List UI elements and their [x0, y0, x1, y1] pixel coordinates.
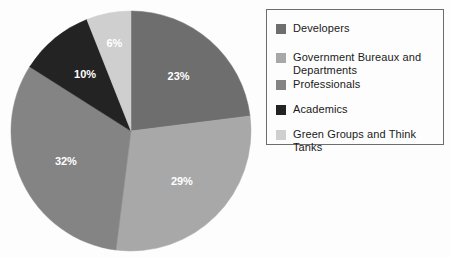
pie-chart-figure: 23%29%32%10%6% DevelopersGovernment Bure…: [0, 0, 451, 257]
legend-color-swatch: [276, 130, 286, 140]
chart-legend: DevelopersGovernment Bureaux and Departm…: [266, 9, 444, 145]
legend-item-list: DevelopersGovernment Bureaux and Departm…: [267, 10, 443, 144]
pie-slice-value-label: 10%: [74, 68, 96, 80]
pie-slice-value-label: 32%: [55, 155, 77, 167]
legend-color-swatch: [276, 80, 286, 90]
pie-chart-svg: 23%29%32%10%6%: [0, 0, 266, 257]
pie-slice[interactable]: [131, 11, 250, 131]
legend-item-label: Green Groups and Think Tanks: [293, 128, 443, 153]
legend-color-swatch: [276, 24, 286, 34]
pie-slice-value-label: 23%: [168, 70, 190, 82]
legend-item-label: Academics: [293, 103, 348, 116]
pie-slice-value-label: 29%: [171, 175, 193, 187]
pie-chart-plot-area: 23%29%32%10%6%: [0, 0, 266, 257]
legend-item[interactable]: Developers: [276, 22, 350, 35]
legend-item[interactable]: Academics: [276, 103, 348, 116]
pie-slice-value-label: 6%: [106, 37, 122, 49]
legend-item-label: Developers: [293, 22, 350, 35]
legend-item-label: Government Bureaux and Departments: [293, 51, 421, 76]
legend-color-swatch: [276, 53, 286, 63]
legend-color-swatch: [276, 105, 286, 115]
legend-item[interactable]: Professionals: [276, 78, 360, 91]
legend-item[interactable]: Government Bureaux and Departments: [276, 51, 421, 76]
legend-item[interactable]: Green Groups and Think Tanks: [276, 128, 443, 153]
pie-slice-group: [11, 11, 251, 251]
legend-item-label: Professionals: [293, 78, 360, 91]
